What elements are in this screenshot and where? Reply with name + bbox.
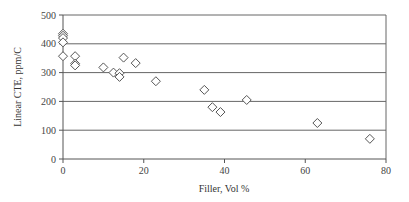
scatter-chart: 0100200300400500 020406080 Filler, Vol %…	[0, 0, 409, 202]
y-tick-label: 400	[41, 38, 56, 49]
y-tick-label: 300	[41, 67, 56, 78]
x-axis-ticks: 020406080	[61, 159, 392, 176]
x-tick-label: 40	[220, 165, 230, 176]
y-axis-title: Linear CTE, ppm/C	[12, 47, 23, 127]
diamond-marker-icon	[131, 59, 140, 68]
diamond-marker-icon	[151, 77, 160, 86]
diamond-marker-icon	[59, 52, 68, 61]
data-points	[59, 29, 375, 143]
diamond-marker-icon	[242, 95, 251, 104]
x-axis-title: Filler, Vol %	[199, 183, 250, 194]
x-tick-label: 20	[139, 165, 149, 176]
x-tick-label: 60	[300, 165, 310, 176]
y-tick-label: 500	[41, 10, 56, 21]
diamond-marker-icon	[216, 108, 225, 117]
y-tick-label: 200	[41, 96, 56, 107]
x-tick-label: 80	[381, 165, 391, 176]
diamond-marker-icon	[208, 103, 217, 112]
diamond-marker-icon	[200, 85, 209, 94]
axes	[63, 15, 386, 159]
y-tick-label: 100	[41, 125, 56, 136]
y-tick-label: 0	[51, 154, 56, 165]
diamond-marker-icon	[313, 119, 322, 128]
diamond-marker-icon	[99, 63, 108, 72]
diamond-marker-icon	[365, 134, 374, 143]
diamond-marker-icon	[119, 53, 128, 62]
x-tick-label: 0	[61, 165, 66, 176]
